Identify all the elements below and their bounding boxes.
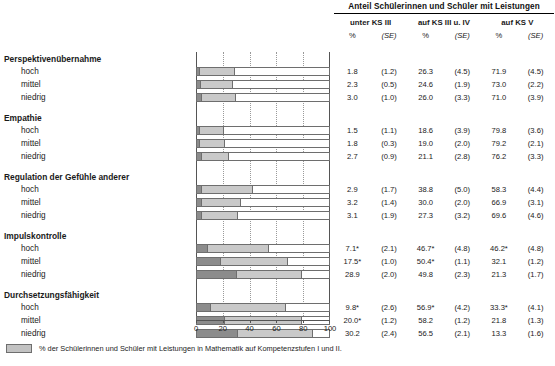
cell-se-ks5: (3.9) [517, 93, 554, 102]
x-tick-0 [196, 320, 197, 323]
bar-track [196, 244, 330, 253]
cell-pct-ks3-ks4: 27.3 [407, 211, 444, 220]
cell-se-ks3-ks4: (1.2) [444, 316, 481, 325]
figure-root: Anteil Schülerinnen und Schüler mit Leis… [0, 0, 555, 366]
bar-segment-end-divider [228, 153, 229, 160]
subheader-pct-3: % [481, 31, 518, 40]
x-tick-label-40: 40 [245, 324, 253, 333]
bar-segment-divider [199, 68, 200, 75]
bar-segment-end-divider [223, 127, 224, 134]
cell-pct-unter-ks3: 3.2 [334, 198, 371, 207]
x-axis-line [196, 320, 330, 321]
cell-se-unter-ks3: (2.1) [371, 244, 408, 253]
bar-segment-divider [207, 245, 208, 252]
cell-se-ks5: (3.3) [517, 152, 554, 161]
x-tick-label-0: 0 [194, 324, 198, 333]
cell-pct-ks5: 66.9 [481, 198, 518, 207]
cell-pct-unter-ks3: 2.3 [334, 80, 371, 89]
cell-se-unter-ks3: (2.0) [371, 270, 408, 279]
level-label-mittel: mittel [4, 314, 194, 327]
table-row: 3.1(1.9)27.3(3.2)69.6(4.6) [334, 209, 554, 222]
cell-se-unter-ks3: (1.0) [371, 257, 408, 266]
group-spacer [334, 104, 554, 111]
bar-segment-divider [201, 212, 202, 219]
bar-segment-ks3-ks4 [201, 199, 241, 206]
bar-segment-ks3-ks4 [207, 245, 270, 252]
table-row: 7.1*(2.1)46.7*(4.8)46.2*(4.8) [334, 242, 554, 255]
cell-se-unter-ks3: (0.9) [371, 152, 408, 161]
table-row: 2.3(0.5)24.6(1.9)73.0(2.2) [334, 78, 554, 91]
cell-pct-unter-ks3: 1.5 [334, 126, 371, 135]
x-tick-20 [223, 320, 224, 323]
x-tick-60 [276, 320, 277, 323]
cell-pct-ks3-ks4: 46.7* [407, 244, 444, 253]
bar-row [196, 255, 330, 268]
cell-se-ks5: (2.2) [517, 80, 554, 89]
bar-track [196, 93, 330, 102]
bar-segment-end-divider [252, 186, 253, 193]
cell-pct-ks5: 13.3 [481, 329, 518, 338]
bar-segment-end-divider [224, 140, 225, 147]
bar-track [196, 198, 330, 207]
level-label-hoch: hoch [4, 301, 194, 314]
table-row: 2.9(1.7)38.8(5.0)58.3(4.4) [334, 183, 554, 196]
bar-segment-end-divider [232, 81, 233, 88]
cell-pct-unter-ks3: 1.8 [334, 139, 371, 148]
bar-row [196, 124, 330, 137]
bar-segment-ks3-ks4 [201, 212, 238, 219]
cell-se-ks5: (4.8) [517, 244, 554, 253]
cell-se-ks3-ks4: (4.5) [444, 67, 481, 76]
bar-segment-unter-ks3 [197, 271, 236, 278]
subheader-pct-1: % [334, 31, 371, 40]
level-label-niedrig: niedrig [4, 327, 194, 340]
bar-segment-divider [236, 271, 237, 278]
cell-se-ks5: (4.6) [517, 211, 554, 220]
cell-pct-unter-ks3: 7.1* [334, 244, 371, 253]
cell-se-ks3-ks4: (5.0) [444, 185, 481, 194]
bar-row [196, 91, 330, 104]
legend-swatch-icon [6, 344, 32, 353]
group-label-3: Regulation der Gefühle anderer [4, 170, 194, 183]
group-spacer [4, 104, 194, 111]
group-label-1: Perspektivenübernahme [4, 52, 194, 65]
cell-se-ks3-ks4: (3.9) [444, 126, 481, 135]
cell-se-unter-ks3: (2.4) [371, 329, 408, 338]
cell-pct-ks3-ks4: 38.8 [407, 185, 444, 194]
table-header: Anteil Schülerinnen und Schüler mit Leis… [334, 2, 554, 40]
bar-segment-ks3-ks4 [201, 186, 253, 193]
cell-se-ks3-ks4: (2.0) [444, 198, 481, 207]
table-row: 17.5*(1.0)50.4*(1.1)32.1(1.2) [334, 255, 554, 268]
cell-se-ks5: (3.1) [517, 198, 554, 207]
cell-se-unter-ks3: (1.2) [371, 316, 408, 325]
bar-segment-ks3-ks4 [201, 153, 229, 160]
cell-pct-ks5: 32.1 [481, 257, 518, 266]
table-row: 1.8(0.3)19.0(2.0)79.2(2.1) [334, 137, 554, 150]
bar-track [196, 270, 330, 279]
level-label-mittel: mittel [4, 78, 194, 91]
column-group-ks5: auf KS V [481, 18, 554, 27]
bar-segment-end-divider [268, 245, 269, 252]
cell-se-ks5: (1.3) [517, 316, 554, 325]
table-row: 20.0*(1.2)58.2(1.2)21.8(1.3) [334, 314, 554, 327]
cell-pct-ks5: 58.3 [481, 185, 518, 194]
level-label-niedrig: niedrig [4, 209, 194, 222]
column-sub-headers: % (SE) % (SE) % (SE) [334, 31, 554, 40]
bar-segment-unter-ks3 [197, 304, 210, 311]
column-group-unter-ks3: unter KS III [334, 18, 407, 27]
group-spacer [334, 281, 554, 288]
cell-se-ks5: (4.4) [517, 185, 554, 194]
bar-segment-ks3-ks4 [201, 94, 236, 101]
cell-se-unter-ks3: (1.9) [371, 211, 408, 220]
table-row: 1.8(1.2)26.3(4.5)71.9(4.5) [334, 65, 554, 78]
table-row: 9.8*(2.6)56.9*(4.2)33.3*(4.1) [334, 301, 554, 314]
table-group-spacer-row [334, 111, 554, 124]
bar-segment-ks3-ks4 [199, 140, 224, 147]
bar-segment-divider [201, 186, 202, 193]
table-title: Anteil Schülerinnen und Schüler mit Leis… [334, 2, 554, 11]
bar-segment-end-divider [301, 271, 302, 278]
bar-row [196, 209, 330, 222]
cell-se-unter-ks3: (1.2) [371, 67, 408, 76]
cell-se-ks5: (4.5) [517, 67, 554, 76]
cell-se-ks3-ks4: (2.3) [444, 270, 481, 279]
cell-se-ks5: (1.2) [517, 257, 554, 266]
